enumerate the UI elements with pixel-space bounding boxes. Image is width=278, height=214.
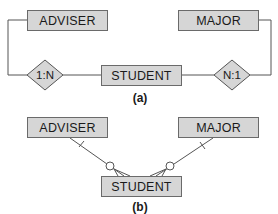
caption-b: (b) (120, 199, 160, 214)
entity-label: STUDENT (111, 180, 171, 194)
caption-a: (a) (120, 90, 160, 106)
entity-label: ADVISER (39, 14, 95, 28)
entity-adviser-a: ADVISER (27, 10, 108, 31)
entity-adviser-b: ADVISER (27, 117, 108, 138)
relationship-label-n1: N:1 (214, 66, 250, 84)
optional-circle-icon (106, 162, 114, 170)
major-student-crowsfoot-line (156, 138, 213, 176)
entity-label: MAJOR (196, 121, 241, 135)
entity-major-b: MAJOR (178, 117, 259, 138)
entity-label: STUDENT (111, 69, 171, 83)
entity-label: MAJOR (196, 14, 241, 28)
entity-student-a: STUDENT (101, 65, 182, 86)
entity-major-a: MAJOR (178, 10, 259, 31)
entity-label: ADVISER (39, 121, 95, 135)
adviser-to-1n-connector (8, 20, 27, 75)
entity-student-b: STUDENT (101, 176, 182, 197)
relationship-label-1n: 1:N (27, 66, 63, 84)
mandatory-one-bar-icon (200, 142, 205, 149)
optional-circle-icon (166, 162, 174, 170)
